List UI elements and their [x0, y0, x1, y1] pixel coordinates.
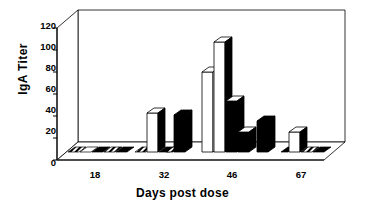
x-axis-title: Days post dose [0, 186, 365, 200]
x-tick-label-46: 46 [212, 170, 252, 180]
x-tick-label-67: 67 [281, 170, 321, 180]
chart-root: IgA Titer 120 100 80 60 40 20 0 [0, 0, 365, 214]
bar-group-18 [68, 147, 134, 152]
bar-67-2 [289, 127, 307, 152]
bar-46-5 [257, 116, 275, 152]
chart-canvas [0, 0, 365, 214]
bar-46-4 [238, 127, 256, 152]
plot-area [0, 0, 365, 214]
x-tick-label-18: 18 [75, 170, 115, 180]
bar-32-5 [174, 110, 192, 152]
x-tick-label-32: 32 [144, 170, 184, 180]
bar-32-2 [147, 108, 165, 152]
